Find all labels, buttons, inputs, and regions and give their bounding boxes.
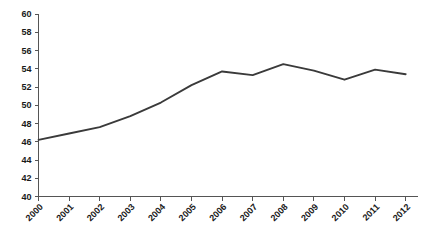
- x-tick-label: 2000: [24, 202, 45, 223]
- x-tick-label: 2009: [299, 202, 320, 223]
- x-axis-ticks: [39, 197, 406, 201]
- x-tick-label: 2003: [115, 202, 136, 223]
- x-tick-label: 2002: [85, 202, 106, 223]
- y-tick-label: 58: [21, 27, 31, 37]
- y-tick-label: 60: [21, 9, 31, 19]
- x-tick-label: 2006: [207, 202, 228, 223]
- x-tick-label: 2001: [54, 202, 75, 223]
- x-tick-label: 2005: [177, 202, 198, 223]
- y-tick-label: 56: [21, 46, 31, 56]
- y-tick-label: 44: [21, 155, 31, 165]
- y-tick-label: 48: [21, 119, 31, 129]
- series-group: [39, 64, 406, 140]
- x-tick-label: 2007: [238, 202, 259, 223]
- y-axis-ticks: [35, 14, 39, 197]
- x-tick-label: 2004: [146, 202, 167, 223]
- y-axis-tick-labels: 4042444648505254565860: [21, 9, 31, 202]
- data-series-line: [39, 64, 406, 140]
- y-tick-label: 54: [21, 64, 31, 74]
- x-tick-label: 2008: [268, 202, 289, 223]
- y-tick-label: 52: [21, 82, 31, 92]
- y-tick-label: 40: [21, 192, 31, 202]
- y-tick-label: 50: [21, 100, 31, 110]
- x-tick-label: 2010: [330, 202, 351, 223]
- y-tick-label: 46: [21, 137, 31, 147]
- line-chart: 4042444648505254565860 20002001200220032…: [0, 0, 427, 238]
- x-axis-group: 2000200120022003200420052006200720082009…: [24, 197, 418, 224]
- x-axis-tick-labels: 2000200120022003200420052006200720082009…: [24, 202, 412, 223]
- y-axis-group: 4042444648505254565860: [21, 9, 38, 202]
- x-tick-label: 2011: [361, 202, 382, 223]
- y-tick-label: 42: [21, 173, 31, 183]
- chart-canvas: 4042444648505254565860 20002001200220032…: [0, 0, 427, 238]
- x-tick-label: 2012: [391, 202, 412, 223]
